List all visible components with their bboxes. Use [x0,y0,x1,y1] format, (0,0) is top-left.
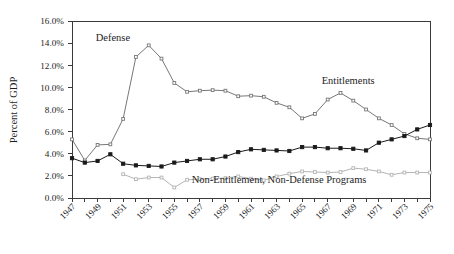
data-point-marker [326,98,329,101]
data-point-marker [173,82,176,85]
data-point-marker [314,171,317,174]
data-point-marker [288,106,291,109]
y-tick-label: 4.0% [45,149,64,159]
data-point-marker [313,146,316,149]
data-point-marker [365,168,368,171]
x-tick-label: 1965 [288,201,308,221]
y-axis-tick-labels: 0.0%2.0%4.0%6.0%8.0%10.0%12.0%14.0%16.0% [40,16,64,203]
data-point-marker [352,167,355,170]
data-point-marker [147,44,150,47]
x-tick-label: 1947 [58,201,78,221]
data-point-marker [122,173,125,176]
y-axis-title: Percent of GDP [8,77,19,144]
y-tick-label: 6.0% [45,127,64,137]
x-tick-label: 1973 [390,201,410,221]
data-point-marker [416,137,419,140]
data-point-marker [352,147,355,150]
data-point-marker [122,162,125,165]
data-point-marker [301,146,304,149]
data-point-marker [429,171,432,174]
data-point-marker [301,170,304,173]
x-tick-label: 1959 [211,201,231,221]
data-point-marker [326,147,329,150]
data-point-marker [186,178,189,181]
data-point-marker [377,117,380,120]
data-point-marker [109,153,112,156]
x-tick-label: 1969 [339,201,359,221]
data-point-marker [198,158,201,161]
data-point-marker [71,138,74,141]
data-point-marker [186,90,189,93]
data-point-marker [428,123,431,126]
series-line [72,125,430,166]
data-point-marker [352,99,355,102]
data-point-marker [237,95,240,98]
data-point-marker [160,176,163,179]
data-point-marker [135,178,138,181]
data-point-marker [262,148,265,151]
line-chart: 0.0%2.0%4.0%6.0%8.0%10.0%12.0%14.0%16.0%… [0,0,454,254]
y-tick-label: 16.0% [40,16,64,26]
x-tick-label: 1961 [237,201,257,221]
data-point-marker [403,171,406,174]
data-point-marker [109,143,112,146]
data-point-marker [339,147,342,150]
y-tick-label: 8.0% [45,105,64,115]
data-point-marker [377,141,380,144]
data-point-marker [211,89,214,92]
data-point-marker [429,138,432,141]
y-tick-label: 0.0% [45,193,64,203]
data-point-marker [403,134,406,137]
data-point-marker [390,138,393,141]
data-point-marker [250,94,253,97]
data-point-marker [314,113,317,116]
data-point-marker [122,118,125,121]
x-tick-label: 1967 [313,201,333,221]
data-point-marker [147,176,150,179]
data-point-marker [224,155,227,158]
data-point-marker [365,108,368,111]
x-tick-label: 1949 [83,201,103,221]
data-point-marker [160,165,163,168]
data-point-marker [275,101,278,104]
data-point-marker [275,149,278,152]
data-point-marker [339,92,342,95]
data-point-marker [339,171,342,174]
series-line [72,45,430,160]
y-axis-ticks [68,21,72,198]
data-point-marker [134,164,137,167]
series-label-defense: Defense [96,32,131,43]
data-point-marker [211,158,214,161]
data-point-marker [416,171,419,174]
x-tick-label: 1951 [109,201,129,221]
y-tick-label: 12.0% [40,61,64,71]
data-point-marker [83,161,86,164]
data-point-marker [224,89,227,92]
data-point-marker [173,161,176,164]
x-tick-label: 1957 [185,201,205,221]
series-label-non-entitlement-non-defense-programs: Non-Entitlement, Non-Defense Programs [192,174,367,185]
x-tick-label: 1955 [160,201,180,221]
data-point-marker [237,150,240,153]
data-point-marker [70,157,73,160]
data-point-marker [390,124,393,127]
x-axis-tick-labels: 1947194919511953195519571959196119631965… [58,201,436,221]
data-point-marker [135,56,138,59]
y-tick-label: 10.0% [40,83,64,93]
y-tick-label: 2.0% [45,171,64,181]
data-point-marker [377,170,380,173]
data-point-marker [390,173,393,176]
data-series-layer [70,44,431,189]
data-point-marker [185,159,188,162]
data-point-marker [364,149,367,152]
data-point-marker [198,89,201,92]
data-point-marker [288,149,291,152]
data-point-marker [173,186,176,189]
series-label-entitlements: Entitlements [322,75,375,86]
data-point-marker [262,95,265,98]
y-tick-label: 14.0% [40,38,64,48]
x-tick-label: 1953 [134,201,154,221]
data-point-marker [160,57,163,60]
data-point-marker [249,148,252,151]
x-tick-label: 1963 [262,201,282,221]
